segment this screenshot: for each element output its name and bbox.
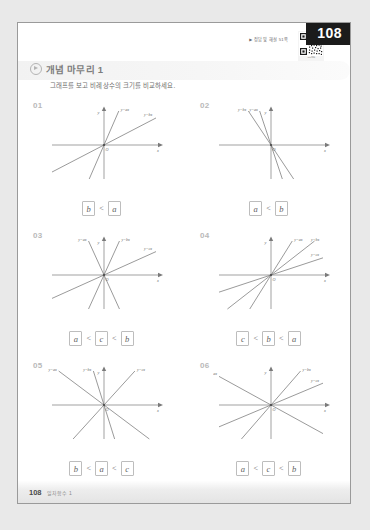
problem-row: 03xyOy=axy=bxy=cxa<c<b04xyOy=axy=bxy=cxc…	[18, 227, 351, 357]
answer-term: a	[69, 331, 82, 346]
problem-number: 04	[200, 231, 210, 240]
svg-text:y=cx: y=cx	[136, 367, 145, 372]
svg-text:y=bx: y=bx	[302, 367, 311, 372]
section-title-label: 개념 마무리 1	[46, 62, 103, 76]
problem-number: 03	[33, 231, 43, 240]
answer-expression: b<a<c	[18, 461, 185, 476]
answer-reference: ▶정답 및 해설 51쪽	[249, 36, 288, 42]
answer-term: b	[69, 461, 82, 476]
answer-term: b	[288, 461, 301, 476]
problem-02: 02xyOy=axy=bxa<b	[185, 97, 351, 227]
svg-text:x: x	[323, 278, 326, 283]
answer-expression: a<b	[185, 201, 351, 216]
workbook-page: 108 ▶정답 및 해설 51쪽	[17, 22, 351, 504]
problem-number: 01	[33, 101, 43, 110]
svg-text:x: x	[156, 278, 159, 283]
qr-caption: QR코드	[299, 56, 323, 59]
answer-operator: <	[279, 334, 284, 343]
svg-text:y=bx: y=bx	[120, 237, 129, 242]
problem-06: 06xyOy=axy=bxy=cxa<c<b	[185, 357, 351, 487]
problem-04: 04xyOy=axy=bxy=cxc<b<a	[185, 227, 351, 357]
svg-text:x: x	[323, 408, 326, 413]
problem-number: 02	[200, 101, 210, 110]
svg-text:y=ax: y=ax	[77, 237, 86, 242]
svg-text:y=ax: y=ax	[293, 237, 302, 242]
svg-text:y: y	[264, 240, 267, 245]
svg-text:y=bx: y=bx	[237, 107, 246, 112]
problem-number: 05	[33, 361, 43, 370]
page-number-badge: 108	[306, 22, 351, 45]
answer-operator: <	[99, 204, 104, 213]
svg-text:y=cx: y=cx	[310, 252, 319, 257]
graph-plot: xyOy=axy=bxy=cx	[46, 235, 166, 315]
svg-text:y=bx: y=bx	[82, 367, 91, 372]
svg-text:y=ax: y=ax	[213, 371, 217, 376]
answer-term: b	[275, 201, 288, 216]
answer-term: a	[95, 461, 108, 476]
answer-reference-label: 정답 및 해설 51쪽	[254, 37, 288, 42]
answer-operator: <	[253, 334, 258, 343]
problem-05: 05xyOy=bxy=axy=cxb<a<c	[18, 357, 185, 487]
svg-text:y=ax: y=ax	[120, 107, 129, 112]
problem-row: 01xyOy=axy=bxb<a02xyOy=axy=bxa<b	[18, 97, 351, 227]
svg-text:O: O	[106, 147, 109, 152]
section-title: 개념 마무리 1	[30, 62, 103, 76]
svg-text:y=cx: y=cx	[143, 246, 152, 251]
section-description: 그래프를 보고 비례상수의 크기를 비교하세요.	[50, 81, 175, 90]
answer-operator: <	[86, 464, 91, 473]
svg-text:y=ax: y=ax	[248, 107, 257, 112]
problem-03: 03xyOy=axy=bxy=cxa<c<b	[18, 227, 185, 357]
answer-term: a	[236, 461, 249, 476]
graph-plot: xyOy=axy=bx	[213, 105, 333, 185]
graph-plot: xyOy=axy=bxy=cx	[213, 365, 333, 445]
answer-expression: b<a	[18, 201, 185, 216]
answer-term: c	[262, 461, 275, 476]
answer-expression: a<c<b	[185, 461, 351, 476]
answer-operator: <	[266, 204, 271, 213]
answer-operator: <	[279, 464, 284, 473]
graph-plot: xyOy=bxy=axy=cx	[46, 365, 166, 445]
footer-page-number: 108	[29, 488, 42, 497]
answer-term: a	[249, 201, 262, 216]
footer-chapter-label: 일차함수 1	[47, 489, 72, 496]
svg-text:y: y	[264, 110, 267, 115]
problem-01: 01xyOy=axy=bxb<a	[18, 97, 185, 227]
svg-text:y: y	[264, 370, 267, 375]
graph-plot: xyOy=axy=bx	[46, 105, 166, 185]
svg-text:x: x	[323, 148, 326, 153]
answer-term: c	[121, 461, 134, 476]
answer-operator: <	[253, 464, 258, 473]
svg-text:y=cx: y=cx	[310, 378, 319, 383]
svg-text:x: x	[156, 408, 159, 413]
page-footer: 108 일차함수 1	[18, 481, 350, 503]
answer-term: a	[108, 201, 121, 216]
answer-term: c	[236, 331, 249, 346]
svg-text:x: x	[156, 148, 159, 153]
answer-term: c	[95, 331, 108, 346]
answer-expression: a<c<b	[18, 331, 185, 346]
play-circle-icon	[30, 63, 42, 75]
svg-text:y=bx: y=bx	[143, 112, 152, 117]
answer-term: b	[82, 201, 95, 216]
svg-text:y: y	[97, 110, 100, 115]
answer-operator: <	[112, 464, 117, 473]
answer-term: b	[262, 331, 275, 346]
problem-row: 05xyOy=bxy=axy=cxb<a<c06xyOy=axy=bxy=cxa…	[18, 357, 351, 487]
graph-plot: xyOy=axy=bxy=cx	[213, 235, 333, 315]
svg-text:O: O	[273, 277, 276, 282]
answer-term: b	[121, 331, 134, 346]
svg-text:y: y	[97, 370, 100, 375]
answer-operator: <	[112, 334, 117, 343]
problem-grid: 01xyOy=axy=bxb<a02xyOy=axy=bxa<b03xyOy=a…	[18, 97, 351, 487]
svg-text:y=bx: y=bx	[310, 237, 319, 242]
answer-expression: c<b<a	[185, 331, 351, 346]
svg-text:y: y	[97, 240, 100, 245]
answer-reference-marker: ▶	[249, 37, 252, 42]
answer-term: a	[288, 331, 301, 346]
problem-number: 06	[200, 361, 210, 370]
svg-text:y=ax: y=ax	[47, 367, 56, 372]
answer-operator: <	[86, 334, 91, 343]
